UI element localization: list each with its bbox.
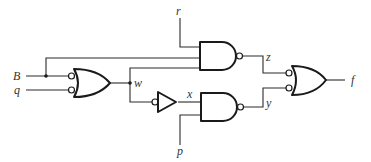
logic-circuit-diagram: B q r p w x z y f [0, 0, 371, 162]
inversion-bubble [286, 70, 292, 76]
wire-b-to-top-nand [46, 58, 200, 76]
inversion-bubble [69, 87, 75, 93]
inversion-bubble [237, 53, 243, 59]
wire-p-input [180, 115, 200, 145]
or-gate-2 [286, 66, 326, 95]
label-output-f: f [351, 73, 356, 87]
inversion-bubble [238, 104, 244, 110]
label-input-r: r [176, 4, 181, 18]
label-input-b: B [13, 69, 21, 83]
label-input-p: p [176, 144, 183, 158]
wire-z [243, 56, 286, 73]
nand-gate-bottom [201, 93, 244, 121]
nand-gate-top [200, 42, 243, 70]
wire-r-input [180, 18, 200, 47]
or-gate-1 [69, 69, 111, 97]
label-input-q: q [14, 83, 20, 97]
inverter-gate [152, 92, 176, 112]
label-signal-w: w [134, 76, 142, 90]
inversion-bubble [69, 73, 75, 79]
junction-b [44, 74, 48, 78]
wire-y [243, 88, 286, 107]
label-signal-y: y [265, 96, 272, 110]
label-signal-z: z [265, 50, 271, 64]
junction-w [128, 81, 132, 85]
label-signal-x: x [186, 87, 193, 101]
inversion-bubble [286, 85, 292, 91]
